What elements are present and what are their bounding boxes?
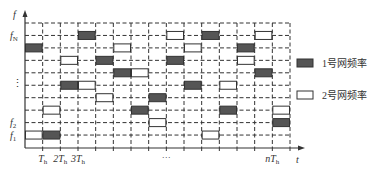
y-row-label: f2	[10, 117, 17, 130]
net1-frequency-block	[255, 69, 272, 77]
y-axis-label: f	[13, 9, 17, 20]
x-tick-label: Th	[38, 153, 48, 166]
net2-frequency-block	[238, 56, 255, 64]
net2-frequency-block	[220, 81, 237, 89]
y-axis-arrow-icon	[23, 10, 28, 17]
net2-frequency-block	[114, 44, 131, 52]
net2-frequency-block	[43, 106, 60, 114]
net2-frequency-block	[202, 131, 219, 139]
net1-frequency-block	[185, 81, 202, 89]
x-tick-labels: Th2Th3Th···nTh	[38, 152, 280, 166]
legend-swatch-net2	[297, 91, 313, 99]
y-row-label: ⋮	[12, 77, 23, 89]
net1-frequency-block	[132, 106, 149, 114]
net1-frequency-block	[26, 44, 43, 52]
frequency-hopping-diagram: f t fN⋮f2f1 Th2Th3Th···nTh 1号网频率2号网频率	[0, 0, 373, 174]
net2-frequency-block	[61, 56, 78, 64]
net1-frequency-block	[220, 106, 237, 114]
net1-frequency-block	[202, 31, 219, 39]
x-axis-label: t	[296, 154, 299, 165]
net2-frequency-block	[132, 69, 149, 77]
x-tick-label: 2Th	[53, 153, 68, 166]
legend-label-net1: 1号网频率	[322, 57, 367, 69]
net1-frequency-block	[79, 31, 96, 39]
x-tick-label: 3Th	[70, 153, 86, 166]
y-row-labels: fN⋮f2f1	[10, 30, 23, 143]
x-tick-label: ···	[162, 152, 171, 162]
net2-frequency-block	[255, 31, 272, 39]
net2-frequency-block	[273, 106, 290, 114]
diagram-canvas: f t fN⋮f2f1 Th2Th3Th···nTh 1号网频率2号网频率	[0, 0, 373, 174]
legend-swatch-net1	[297, 59, 313, 67]
net1-frequency-block	[238, 44, 255, 52]
x-axis-arrow-icon	[298, 146, 305, 151]
net2-frequency-block	[79, 81, 96, 89]
net1-frequency-block	[61, 81, 78, 89]
net2-frequency-block	[26, 131, 43, 139]
legend: 1号网频率2号网频率	[297, 57, 367, 101]
net1-frequency-block	[114, 69, 131, 77]
net2-frequency-block	[185, 44, 202, 52]
legend-label-net2: 2号网频率	[322, 89, 367, 101]
y-row-label: fN	[10, 30, 18, 43]
net1-frequency-block	[43, 131, 60, 139]
net1-frequency-block	[96, 56, 113, 64]
net2-frequency-block	[96, 94, 113, 102]
net2-frequency-block	[167, 31, 184, 39]
x-tick-label: nTh	[265, 153, 280, 166]
net2-frequency-block	[149, 119, 166, 127]
y-row-label: f1	[10, 130, 17, 143]
net1-frequency-block	[149, 94, 166, 102]
net1-frequency-block	[167, 56, 184, 64]
net1-frequency-block	[273, 119, 290, 127]
